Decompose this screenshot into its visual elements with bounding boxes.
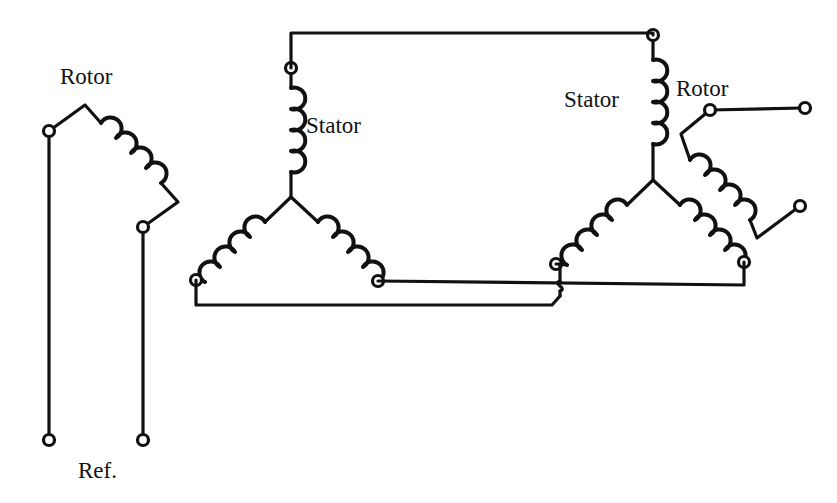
stator-left-coil-top — [291, 88, 305, 173]
stator-left-coil-bright — [318, 216, 384, 282]
label-reference: Ref. — [78, 458, 117, 483]
terminal-rotor-right-bot[interactable] — [795, 201, 806, 212]
terminal-rotor-left-top[interactable] — [44, 126, 55, 137]
rotor-left-elbow — [143, 183, 178, 227]
terminal-ref-a[interactable] — [44, 435, 55, 446]
bus-top — [291, 33, 653, 68]
rotor-left-coil-loops — [101, 117, 167, 183]
rotor-left-coil — [101, 117, 167, 183]
terminal-rotor-left-mid[interactable] — [138, 222, 149, 233]
stator-left-coil-bleft — [199, 216, 265, 282]
stator-right-center-to-bleft — [627, 180, 653, 205]
terminal-rotor-right-top[interactable] — [705, 105, 716, 116]
rotor-right-lead-top — [710, 108, 802, 110]
stator-left-center-to-bright — [291, 197, 318, 222]
rotor-left-group — [44, 105, 179, 446]
label-stator-right: Stator — [564, 87, 619, 112]
terminal-ref-b[interactable] — [138, 435, 149, 446]
label-stator-left: Stator — [306, 113, 361, 138]
stator-right-coil-bright — [680, 199, 746, 265]
stator-left-group — [191, 63, 384, 287]
stator-left-center-to-bleft — [265, 197, 291, 222]
label-rotor-left: Rotor — [60, 64, 113, 89]
stator-right-coil-bleft — [561, 199, 627, 265]
interconnect-buses — [196, 33, 744, 305]
terminal-rotor-right-lead-end[interactable] — [800, 103, 811, 114]
schematic-canvas: Rotor Stator Stator Rotor Ref. — [0, 0, 837, 503]
label-rotor-right: Rotor — [676, 76, 729, 101]
circuit-diagram: Rotor Stator Stator Rotor Ref. — [0, 0, 837, 503]
stator-right-center-to-bright — [653, 180, 680, 205]
stator-right-group — [551, 30, 750, 270]
stator-right-coil-top — [653, 60, 667, 145]
rotor-right-apex-wire — [681, 110, 710, 160]
rotor-left-apex-wire — [49, 105, 101, 131]
